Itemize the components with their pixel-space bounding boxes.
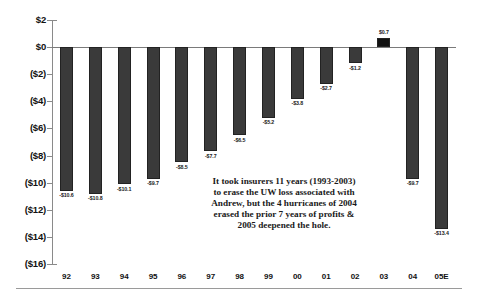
bars-layer: -$10.6-$10.8-$10.1-$9.7-$8.5-$7.7-$6.5-$… — [52, 0, 458, 301]
chart-annotation: It took insurers 11 years (1993-2003)to … — [186, 176, 382, 231]
x-axis-label-98: 98 — [225, 272, 255, 281]
y-axis-tick-label: $2 — [2, 14, 46, 25]
bar-00 — [291, 47, 304, 99]
bar-92 — [60, 47, 73, 191]
bar-94 — [118, 47, 131, 184]
bar-05E — [435, 47, 448, 229]
bar-98 — [233, 47, 246, 135]
y-axis-tick-label: ($8) — [2, 150, 46, 161]
bar-value-label-96: -$8.5 — [165, 164, 199, 170]
bar-value-label-04: -$9.7 — [396, 180, 430, 186]
annotation-line-2: to erase the UW loss associated with — [186, 187, 382, 198]
x-axis-label-04: 04 — [398, 272, 428, 281]
bar-01 — [320, 47, 333, 84]
bar-04 — [406, 47, 419, 178]
underwriting-loss-bar-chart: $2$0($2)($4)($6)($8)($10)($12)($14)($16)… — [0, 0, 478, 301]
bar-value-label-02: -$1.2 — [338, 65, 372, 71]
bar-value-label-01: -$2.7 — [309, 85, 343, 91]
x-axis-label-01: 01 — [311, 272, 341, 281]
x-axis-label-97: 97 — [196, 272, 226, 281]
bar-value-label-03: $0.7 — [367, 29, 401, 35]
bar-95 — [147, 47, 160, 178]
y-axis-tick-label: ($16) — [2, 258, 46, 269]
y-axis-tick-label: ($4) — [2, 95, 46, 106]
x-axis-label-05E: 05E — [427, 272, 457, 281]
bar-value-label-93: -$10.8 — [78, 195, 112, 201]
x-axis-label-99: 99 — [253, 272, 283, 281]
x-axis-label-93: 93 — [80, 272, 110, 281]
bar-value-label-00: -$3.8 — [280, 100, 314, 106]
bar-value-label-99: -$5.2 — [251, 119, 285, 125]
bar-03 — [377, 38, 390, 47]
bar-02 — [349, 47, 362, 63]
y-axis-tick-label: $0 — [2, 41, 46, 52]
y-axis-tick-label: ($2) — [2, 68, 46, 79]
x-axis-label-94: 94 — [109, 272, 139, 281]
x-axis-label-95: 95 — [138, 272, 168, 281]
x-axis-label-02: 02 — [340, 272, 370, 281]
x-axis-label-92: 92 — [51, 272, 81, 281]
y-axis-tick-label: ($14) — [2, 231, 46, 242]
bar-96 — [175, 47, 188, 162]
y-axis-tick-label: ($12) — [2, 204, 46, 215]
annotation-line-4: erased the prior 7 years of profits & — [186, 209, 382, 220]
annotation-line-3: Andrew, but the 4 hurricanes of 2004 — [186, 198, 382, 209]
bar-value-label-97: -$7.7 — [194, 153, 228, 159]
bar-93 — [89, 47, 102, 193]
y-axis-tick-label: ($10) — [2, 177, 46, 188]
bar-value-label-94: -$10.1 — [107, 186, 141, 192]
annotation-line-5: 2005 deepened the hole. — [186, 220, 382, 231]
bottom-divider — [16, 288, 462, 289]
x-axis-label-03: 03 — [369, 272, 399, 281]
annotation-line-1: It took insurers 11 years (1993-2003) — [186, 176, 382, 187]
bar-99 — [262, 47, 275, 117]
x-axis-label-96: 96 — [167, 272, 197, 281]
y-axis-tick-label: ($6) — [2, 122, 46, 133]
bar-value-label-98: -$6.5 — [223, 137, 257, 143]
bar-value-label-05E: -$13.4 — [425, 230, 459, 236]
x-axis-label-00: 00 — [282, 272, 312, 281]
bar-value-label-95: -$9.7 — [136, 180, 170, 186]
bar-97 — [204, 47, 217, 151]
